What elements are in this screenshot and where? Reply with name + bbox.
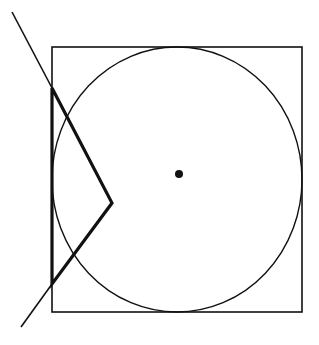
inscribed-circle xyxy=(52,47,302,312)
square xyxy=(52,47,302,312)
secant-line-upper xyxy=(12,12,52,88)
bold-chevron-shape xyxy=(52,88,112,284)
geometry-diagram xyxy=(0,0,319,345)
secant-line-lower xyxy=(21,284,52,327)
center-point xyxy=(175,170,183,178)
